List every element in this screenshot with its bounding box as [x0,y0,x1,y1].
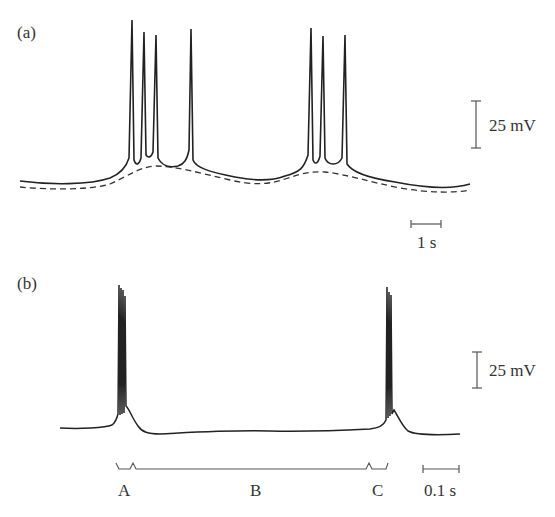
scalebar-b-voltage [472,352,482,388]
scalebar-a-voltage [471,101,481,148]
phase-b-label: B [250,481,261,501]
panel-a-solid-trace [20,20,470,188]
phase-a-label: A [118,481,130,501]
scale-a-time-label: 1 s [417,233,436,253]
scale-b-voltage-label: 25 mV [489,361,536,381]
scale-b-time-label: 0.1 s [424,481,456,501]
panel-b-trace [60,285,460,435]
panel-a-label: (a) [17,23,36,43]
phase-c-label: C [372,481,383,501]
phase-brackets [116,463,388,469]
scalebar-b-time [423,465,459,473]
panel-b-label: (b) [17,274,37,294]
scale-a-voltage-label: 25 mV [489,116,536,136]
figure-canvas [0,0,555,517]
scalebar-a-time [411,220,441,228]
